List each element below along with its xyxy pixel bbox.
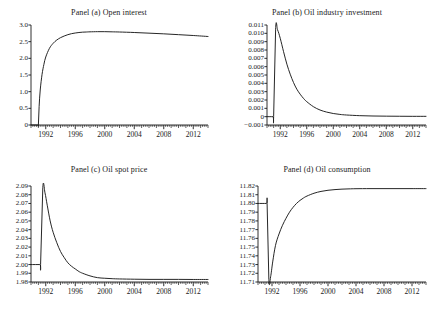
panel-open-interest: Panel (a) Open interest 00.51.01.52.02.5… [0,0,218,157]
panel-c-plot: 1.981.992.002.012.022.032.042.052.062.07… [0,157,218,314]
x-axis-ticks [31,282,208,286]
panel-oil-industry-investment: Panel (b) Oil industry investment −0.001… [218,0,436,157]
series-line [267,23,426,124]
series-line [31,183,208,279]
axis-spines [31,186,208,282]
plot-canvas [0,0,218,157]
axis-spines [258,186,426,282]
panel-b-plot: −0.00100.0010.0020.0030.0040.0050.0060.0… [218,0,436,157]
series-line [31,32,208,127]
x-axis-ticks [31,125,208,129]
panel-d-plot: 11.7111.7211.7311.7411.7511.7611.7711.78… [218,157,436,314]
x-axis-ticks [258,282,426,286]
x-axis-ticks [267,125,426,129]
plot-canvas [218,157,436,314]
impulse-response-figure: Panel (a) Open interest 00.51.01.52.02.5… [0,0,436,314]
plot-canvas [218,0,436,157]
plot-canvas [0,157,218,314]
panel-oil-spot-price: Panel (c) Oil spot price 1.981.992.002.0… [0,157,218,314]
series-line [258,189,426,285]
panel-oil-consumption: Panel (d) Oil consumption 11.7111.7211.7… [218,157,436,314]
panel-a-plot: 00.51.01.52.02.53.0199219962000200420082… [0,0,218,157]
